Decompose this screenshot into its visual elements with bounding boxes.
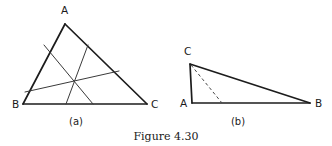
figure-caption: Figure 4.30: [133, 130, 198, 143]
panel-b-altitude-from-C-dashed: [191, 65, 222, 103]
panel-b-vertex-label-C: C: [184, 45, 191, 57]
panel-a-group: A B C: [12, 4, 158, 110]
panel-a-label: (a): [69, 116, 83, 127]
panel-a-cevian-from-AB-to-BC: [44, 45, 93, 104]
panel-a-vertex-label-C: C: [151, 98, 158, 110]
panel-a-vertex-label-B: B: [12, 98, 19, 110]
figure-canvas: A B C A B C (a) (b) Figure 4.30: [0, 0, 332, 146]
panel-a-cevian-from-AC-to-BC: [66, 45, 88, 104]
panel-a-side-AB: [23, 24, 65, 104]
panel-b-group: A B C: [180, 45, 322, 109]
panel-a-vertex-label-A: A: [61, 4, 69, 16]
figure-4-30-container: A B C A B C (a) (b) Figure 4.30: [0, 0, 332, 146]
panel-b-side-CB: [190, 64, 310, 103]
panel-a-side-CA: [65, 24, 147, 104]
panel-b-side-AC: [190, 64, 192, 103]
panel-b-label: (b): [231, 116, 245, 127]
panel-b-vertex-label-A: A: [180, 97, 188, 109]
panel-b-vertex-label-B: B: [315, 97, 322, 109]
